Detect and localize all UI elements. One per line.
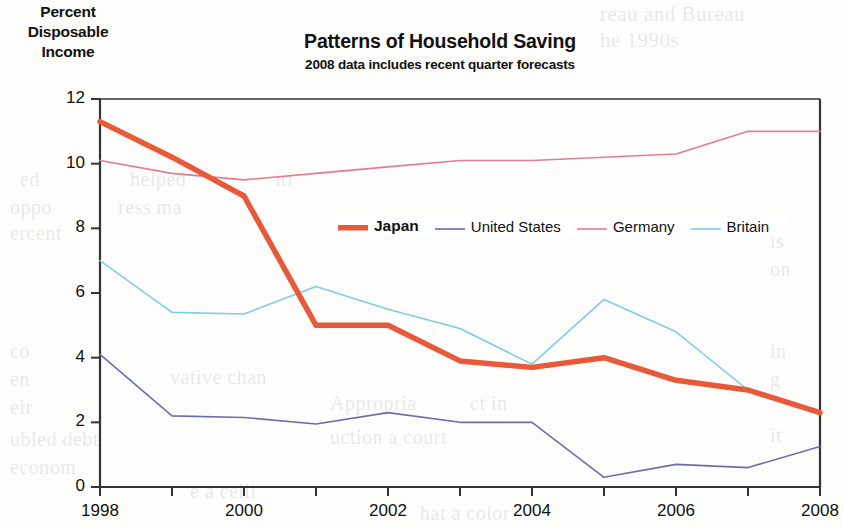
series-line-britain: [100, 261, 820, 413]
y-axis-tick-label: 8: [39, 217, 85, 237]
chart-legend: JapanUnited StatesGermanyBritain: [336, 216, 787, 236]
plot-area: [0, 0, 843, 528]
chart-figure: reau and Bureauhe 1990sedhelpeditioppore…: [0, 0, 843, 528]
legend-swatch-icon: [577, 217, 607, 235]
series-line-united-states: [100, 354, 820, 477]
x-axis-tick-label: 2008: [785, 501, 843, 521]
y-axis-tick-label: 4: [39, 347, 85, 367]
y-axis-tick-label: 12: [39, 88, 85, 108]
series-line-germany: [100, 131, 820, 180]
series-group: [100, 122, 820, 478]
legend-item-united-states: United States: [435, 217, 561, 235]
legend-item-germany: Germany: [577, 217, 675, 235]
legend-label: Britain: [727, 218, 770, 235]
legend-item-japan: Japan: [338, 217, 419, 235]
y-axis-tick-label: 6: [39, 282, 85, 302]
legend-swatch-icon: [691, 217, 721, 235]
y-axis-tick-label: 2: [39, 411, 85, 431]
x-axis-tick-label: 2002: [353, 501, 423, 521]
legend-label: United States: [471, 218, 561, 235]
x-axis-tick-label: 2004: [497, 501, 567, 521]
legend-swatch-icon: [435, 217, 465, 235]
x-axis-tick-label: 2000: [209, 501, 279, 521]
x-axis-tick-label: 2006: [641, 501, 711, 521]
y-axis-tick-label: 10: [39, 153, 85, 173]
legend-label: Germany: [613, 218, 675, 235]
axes-group: [91, 99, 820, 496]
x-axis-tick-label: 1998: [65, 501, 135, 521]
legend-label: Japan: [374, 217, 419, 235]
series-line-japan: [100, 122, 820, 413]
y-axis-tick-label: 0: [39, 476, 85, 496]
legend-swatch-icon: [338, 217, 368, 235]
legend-item-britain: Britain: [691, 217, 770, 235]
plot-svg: [0, 0, 843, 528]
